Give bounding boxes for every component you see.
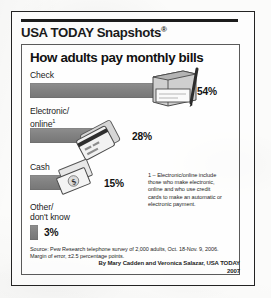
byline-credit: By Mary Cadden and Veronica Salazar, USA… [98,260,240,266]
brand-title: USA TODAY Snapshots® [21,25,167,40]
bar-label-cash: Cash [30,163,50,173]
byline: By Mary Cadden and Veronica Salazar, USA… [21,259,240,275]
checkbook-pen-icon [147,67,203,109]
snapshot-frame: USA TODAY Snapshots® How adults pay mont… [11,11,255,286]
brand-name: USA TODAY Snapshots [21,25,161,40]
dollar-bills-icon: $ [51,157,103,201]
bar-value-cash: 15% [104,178,124,189]
bar-value-electronic-online: 28% [132,131,152,142]
bar-label-other-dont-know: Other/ don't know [30,203,70,222]
registered-mark: ® [161,25,167,34]
bar-value-other-dont-know: 3% [44,227,58,238]
footnote-marker: 1 [52,118,55,124]
bar-other-dont-know [30,225,38,240]
bar-label-electronic-online-text: Electronic/ online [30,106,69,128]
bar-chart: Check 54% El [22,45,239,274]
brand-rule [21,19,238,22]
bar-label-check: Check [30,71,54,81]
byline-year: 2007 [21,267,240,275]
bar-check [30,83,156,98]
footnote: 1 – Electronic/online include those who … [148,172,224,208]
bar-label-electronic-online: Electronic/ online1 [30,107,69,129]
chart-container: How adults pay monthly bills Check 54% [21,44,240,275]
